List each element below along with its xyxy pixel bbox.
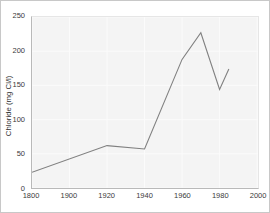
line-series-chloride [32,17,258,188]
x-axis-tick-label: 1980 [212,192,229,200]
chart-figure: 050100150200250 Chloride (mg Cl/l) 18001… [0,0,270,213]
y-axis-tick-label: 250 [12,12,25,20]
y-axis-tick-label: 200 [12,47,25,55]
plot-area [31,16,259,189]
series-line-chloride [32,33,229,173]
y-axis-title: Chloride (mg Cl/l) [5,51,13,161]
x-axis-tick-label: 1960 [174,192,191,200]
x-axis-tick-label: 2000 [250,192,267,200]
x-axis-tick-label: 1920 [98,192,115,200]
x-axis-tick-labels: 1800190019201940196019802000 [1,192,270,206]
y-axis-tick-label: 50 [17,151,25,159]
x-axis-tick-label: 1900 [61,192,78,200]
x-axis-tick-label: 1940 [136,192,153,200]
y-axis-tick-label: 100 [12,116,25,124]
y-axis-tick-label: 150 [12,81,25,89]
x-axis-tick-label: 1800 [23,192,40,200]
